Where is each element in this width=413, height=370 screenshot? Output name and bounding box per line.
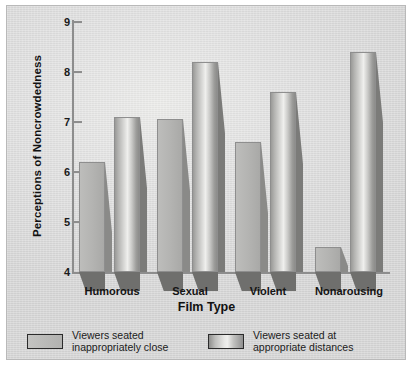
bar-face [114,117,140,272]
x-axis-title: Film Type [0,300,413,314]
bar-sexual-appropriate [192,62,218,272]
legend-label-appropriate-distances: Viewers seated at appropriate distances [253,329,353,353]
bar-side-face [183,119,190,272]
y-tick-9 [74,21,82,23]
bar-face [79,162,105,272]
y-tick-label-6: 6 [56,167,70,177]
y-tick-7 [74,121,82,123]
bar-side-face [105,162,112,272]
bar-face [192,62,218,272]
x-tick-label-nonarousing: Nonarousing [294,285,404,297]
chart-figure: Perceptions of Noncrowdedness 9 8 7 6 5 … [0,0,413,370]
bar-nonarousing-appropriate [350,52,376,272]
legend-swatch-cylinder [208,334,244,349]
bar-face [350,52,376,272]
bar-side-face [261,142,268,272]
bar-side-face [140,117,147,272]
bar-sexual-close [157,119,183,272]
bar-face [270,92,296,272]
y-tick-label-8: 8 [56,67,70,77]
y-tick-label-4: 4 [56,267,70,277]
y-tick-8 [74,71,82,73]
bar-side-face [218,62,225,272]
y-axis-title: Perceptions of Noncrowdedness [31,46,43,246]
y-axis-line [72,20,74,274]
legend-swatch-flat [27,334,63,349]
bar-humorous-appropriate [114,117,140,272]
bar-humorous-close [79,162,105,272]
y-tick-label-9: 9 [56,17,70,27]
bar-side-face [376,52,383,272]
plot-area: Perceptions of Noncrowdedness 9 8 7 6 5 … [0,0,413,370]
bar-violent-close [235,142,261,272]
legend-item-inappropriately-close: Viewers seated inappropriately close [27,329,168,353]
legend-label-inappropriately-close: Viewers seated inappropriately close [72,329,168,353]
legend-item-appropriate-distances: Viewers seated at appropriate distances [208,329,353,353]
bar-face [315,247,341,272]
bar-nonarousing-close [315,247,341,272]
bar-face [235,142,261,272]
bar-violent-appropriate [270,92,296,272]
bar-side-face [296,92,303,272]
bar-face [157,119,183,272]
bar-side-face [341,247,348,272]
y-tick-label-5: 5 [56,217,70,227]
y-tick-label-7: 7 [56,117,70,127]
